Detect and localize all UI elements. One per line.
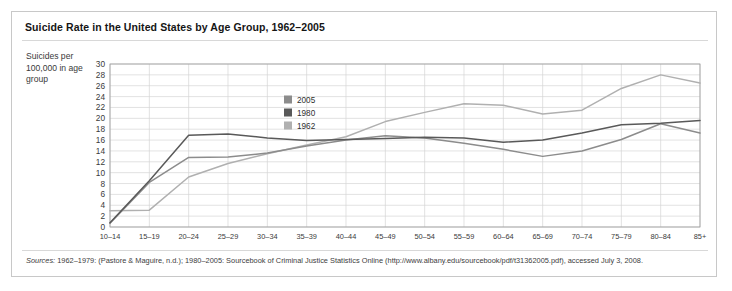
x-tick-label: 20–24: [178, 232, 199, 241]
sources-note: Sources: 1962–1979: (Pastore & Maguire, …: [26, 256, 706, 266]
y-tick-label: 6: [100, 189, 105, 199]
legend-label-1962: 1962: [297, 122, 316, 131]
legend-swatch-1980: [284, 109, 292, 117]
sources-label: Sources:: [26, 256, 55, 265]
legend-label-2005: 2005: [297, 96, 316, 105]
y-tick-label: 28: [96, 70, 106, 80]
sources-text: 1962–1979: (Pastore & Maguire, n.d.); 19…: [55, 256, 643, 265]
x-tick-label: 75–79: [611, 232, 632, 241]
y-tick-label: 26: [96, 81, 106, 91]
x-tick-label: 15–19: [139, 232, 160, 241]
page-title: Suicide Rate in the United States by Age…: [25, 21, 325, 33]
x-tick-label: 35–39: [296, 232, 317, 241]
x-tick-label: 55–59: [454, 232, 475, 241]
y-tick-label: 14: [96, 146, 106, 156]
x-tick-label: 10–14: [100, 232, 121, 241]
y-tick-label: 18: [96, 124, 106, 134]
x-tick-label: 30–34: [257, 232, 278, 241]
y-tick-label: 22: [96, 102, 106, 112]
legend-swatch-1962: [284, 122, 292, 130]
line-chart: 02468101214161820222426283010–1415–1920–…: [12, 42, 718, 242]
y-tick-label: 0: [100, 222, 105, 232]
figure-panel: Suicide Rate in the United States by Age…: [11, 11, 717, 277]
y-tick-label: 2: [100, 211, 105, 221]
y-tick-label: 10: [96, 168, 106, 178]
legend-swatch-2005: [284, 96, 292, 104]
y-tick-label: 24: [96, 92, 106, 102]
x-tick-label: 85+: [694, 232, 707, 241]
y-tick-label: 16: [96, 135, 106, 145]
x-tick-label: 50–54: [414, 232, 435, 241]
title-divider: [22, 40, 708, 41]
x-tick-label: 40–44: [336, 232, 357, 241]
sources-divider: [22, 250, 708, 251]
y-tick-label: 30: [96, 59, 106, 69]
y-tick-label: 8: [100, 179, 105, 189]
x-tick-label: 25–29: [218, 232, 239, 241]
chart-area: 02468101214161820222426283010–1415–1920–…: [12, 42, 718, 242]
y-tick-label: 20: [96, 113, 106, 123]
x-tick-label: 65–69: [532, 232, 553, 241]
x-tick-label: 45–49: [375, 232, 396, 241]
series-line-1980: [110, 121, 700, 223]
x-tick-label: 60–64: [493, 232, 514, 241]
y-tick-label: 12: [96, 157, 106, 167]
plot-frame: [110, 64, 700, 227]
y-tick-label: 4: [100, 200, 105, 210]
x-tick-label: 70–74: [572, 232, 593, 241]
x-tick-label: 80–84: [650, 232, 671, 241]
legend-label-1980: 1980: [297, 109, 316, 118]
